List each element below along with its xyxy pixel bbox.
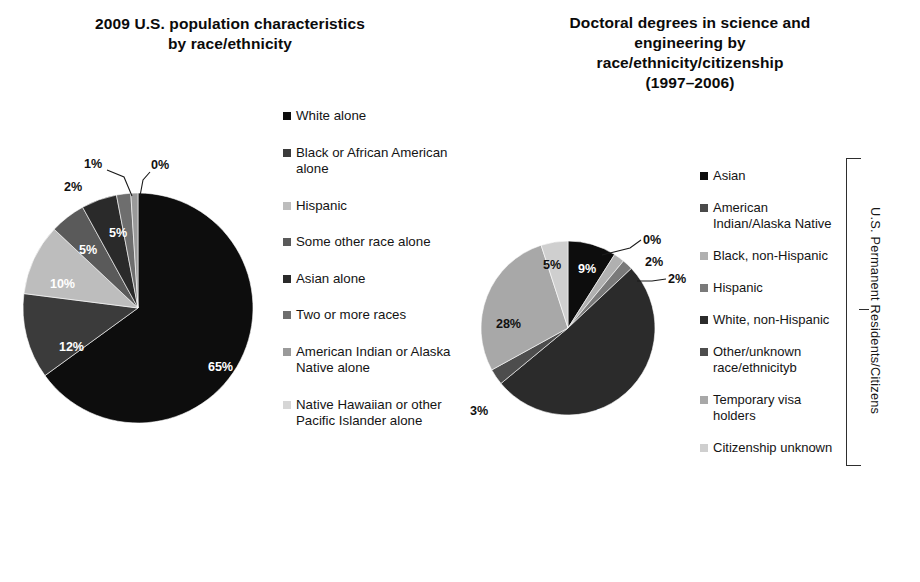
legend-label: Black, non-Hispanic [713,248,828,264]
legend-label: Some other race alone [296,234,431,251]
legend-label: Black or African American alone [296,145,453,178]
legend-item-temporary-visa-holders[interactable]: Temporary visa holders [700,392,842,424]
pie-right-value-3: 2% [668,272,686,286]
pie-left-value-5: 2% [64,180,82,194]
legend-swatch-icon [283,348,291,356]
pie-left-value-3: 5% [79,243,97,257]
legend-item-american-indian-alaska-native[interactable]: American Indian/Alaska Native [700,200,842,232]
legend-item-white-alone[interactable]: White alone [283,108,453,125]
legend-label: American Indian or Alaska Native alone [296,344,453,377]
legend-item-hispanic[interactable]: Hispanic [700,280,842,296]
legend-label: Temporary visa holders [713,392,842,424]
pie-left-value-2: 10% [50,277,75,291]
right-chart-title: Doctoral degrees in science and engineer… [460,13,920,93]
left-chart-title-line1: 2009 U.S. population characteristics [0,14,460,34]
us-population-pie-svg [22,192,254,424]
legend-swatch-icon [283,401,291,409]
pie-left-value-7: 0% [151,158,169,172]
legend-swatch-icon [283,238,291,246]
pie-right-value-6: 28% [496,317,521,331]
pie-right-value-7: 5% [543,258,561,272]
legend-swatch-icon [283,202,291,210]
pie-right-value-5: 3% [470,404,488,418]
left-chart-title-line2: by race/ethnicity [0,34,460,54]
bracket-label: U.S. Permanent Residents/Citizens [866,158,884,464]
legend-item-american-indian-or-alaska-native-alone[interactable]: American Indian or Alaska Native alone [283,344,453,377]
legend-item-black-non-hispanic[interactable]: Black, non-Hispanic [700,248,842,264]
legend-label: White, non-Hispanic [713,312,829,328]
pie-left-value-6: 1% [84,157,102,171]
right-chart-title-line2: engineering by [460,33,920,53]
legend-item-citizenship-unknown[interactable]: Citizenship unknown [700,440,842,456]
legend-swatch-icon [700,284,708,292]
right-chart-title-line4: (1997–2006) [460,73,920,93]
legend-item-black-or-african-american-alone[interactable]: Black or African American alone [283,145,453,178]
legend-item-two-or-more-races[interactable]: Two or more races [283,307,453,324]
figure-root: { "figure": { "bottom_caption": "", "bra… [0,0,920,582]
pie-right-value-2: 2% [645,255,663,269]
right-chart-title-line1: Doctoral degrees in science and [460,13,920,33]
legend-label: Hispanic [296,198,347,215]
legend-item-asian-alone[interactable]: Asian alone [283,271,453,288]
legend-label: Asian [713,168,746,184]
legend-swatch-icon [700,172,708,180]
us-population-legend: White alone Black or African American al… [283,108,453,450]
legend-label: Other/unknown race/ethnicityb [713,344,842,376]
right-chart-title-line3: race/ethnicity/citizenship [460,53,920,73]
legend-label: White alone [296,108,366,125]
legend-label: Hispanic [713,280,763,296]
legend-swatch-icon [700,204,708,212]
pie-right-value-1: 0% [643,233,661,247]
legend-label: Two or more races [296,307,406,324]
pie-left-value-1: 12% [59,340,84,354]
legend-swatch-icon [700,348,708,356]
pie-right-value-4: 51% [597,407,622,421]
pie-left-value-0: 65% [208,360,233,374]
legend-item-white-non-hispanic[interactable]: White, non-Hispanic [700,312,842,328]
legend-item-native-hawaiian-or-other-pacific-islander-alone[interactable]: Native Hawaiian or other Pacific Islande… [283,397,453,430]
bottom-caption [8,577,608,582]
legend-swatch-icon [700,396,708,404]
pie-left-value-4: 5% [109,226,127,240]
legend-swatch-icon [700,444,708,452]
bracket-label-text: U.S. Permanent Residents/Citizens [868,207,883,414]
bracket-line [846,158,861,466]
legend-swatch-icon [283,112,291,120]
legend-swatch-icon [700,252,708,260]
left-chart-title: 2009 U.S. population characteristics by … [0,14,460,54]
legend-item-some-other-race-alone[interactable]: Some other race alone [283,234,453,251]
legend-swatch-icon [283,149,291,157]
legend-swatch-icon [283,275,291,283]
legend-swatch-icon [700,316,708,324]
left-chart-panel: 2009 U.S. population characteristics by … [0,0,460,582]
doctoral-degrees-legend: Asian American Indian/Alaska Native Blac… [700,168,842,472]
legend-item-other-unknown-race-ethnicity[interactable]: Other/unknown race/ethnicityb [700,344,842,376]
legend-item-asian[interactable]: Asian [700,168,842,184]
legend-label: Citizenship unknown [713,440,832,456]
pie-slices-group [23,193,253,423]
us-permanent-residents-bracket: U.S. Permanent Residents/Citizens [846,158,920,464]
legend-item-hispanic[interactable]: Hispanic [283,198,453,215]
legend-label: Native Hawaiian or other Pacific Islande… [296,397,453,430]
pie-right-value-0: 9% [578,262,596,276]
legend-label: Asian alone [296,271,366,288]
legend-label: American Indian/Alaska Native [713,200,842,232]
us-population-pie-chart [22,192,254,424]
legend-swatch-icon [283,311,291,319]
